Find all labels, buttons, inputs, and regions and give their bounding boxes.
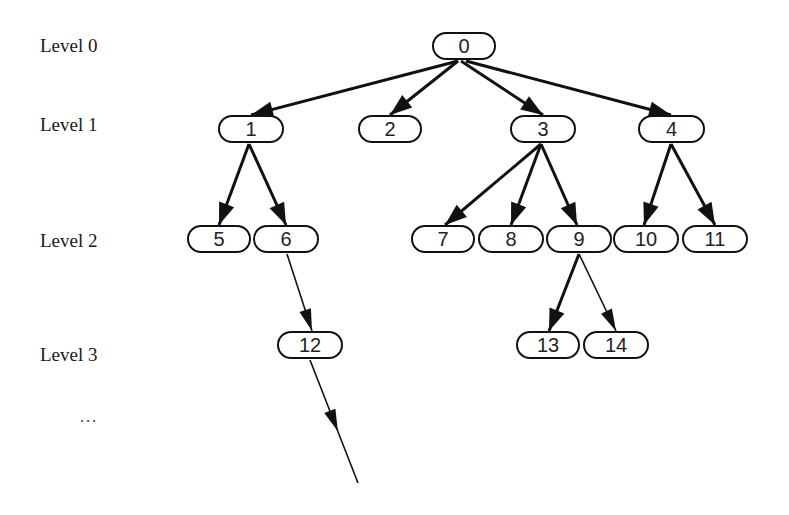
tree-node-0: 0 bbox=[432, 32, 496, 60]
node-label: 0 bbox=[458, 35, 469, 58]
node-label: 14 bbox=[605, 334, 627, 357]
node-label: 10 bbox=[635, 228, 657, 251]
arrowhead-icon bbox=[511, 202, 526, 225]
level-label-0: Level 0 bbox=[40, 36, 98, 55]
edge-0-to-1 bbox=[251, 61, 458, 115]
arrowhead-icon bbox=[390, 95, 412, 115]
tree-node-9: 9 bbox=[546, 225, 612, 253]
tree-node-4: 4 bbox=[638, 115, 705, 143]
tree-node-2: 2 bbox=[358, 115, 422, 143]
more-levels-ellipsis: ... bbox=[80, 408, 98, 426]
node-label: 13 bbox=[537, 334, 559, 357]
tree-node-1: 1 bbox=[218, 115, 284, 143]
level-label-3: Level 3 bbox=[40, 345, 98, 364]
tree-node-11: 11 bbox=[682, 225, 748, 253]
arrowhead-icon bbox=[561, 202, 577, 225]
tree-node-13: 13 bbox=[516, 331, 580, 359]
tree-node-10: 10 bbox=[613, 225, 679, 253]
arrowhead-icon bbox=[299, 308, 312, 331]
arrowhead-icon bbox=[324, 409, 338, 432]
node-label: 11 bbox=[705, 228, 726, 251]
arrowhead-icon bbox=[601, 309, 616, 331]
node-label: 5 bbox=[213, 228, 224, 251]
node-label: 6 bbox=[280, 228, 291, 251]
edge-0-to-4 bbox=[466, 61, 671, 115]
arrowhead-icon bbox=[549, 308, 564, 331]
node-label: 8 bbox=[505, 228, 516, 251]
node-label: 1 bbox=[245, 118, 256, 141]
tree-node-8: 8 bbox=[478, 225, 544, 253]
node-label: 4 bbox=[666, 118, 677, 141]
node-label: 9 bbox=[573, 228, 584, 251]
tree-node-7: 7 bbox=[411, 225, 475, 253]
node-label: 2 bbox=[384, 118, 395, 141]
arrowhead-icon bbox=[697, 202, 715, 225]
tree-node-6: 6 bbox=[253, 225, 319, 253]
arrowhead-icon bbox=[643, 202, 658, 225]
arrowhead-icon bbox=[219, 202, 234, 225]
tree-node-14: 14 bbox=[583, 331, 649, 359]
arrowhead-icon bbox=[520, 96, 543, 115]
level-label-1: Level 1 bbox=[40, 115, 98, 134]
node-label: 12 bbox=[299, 334, 321, 357]
tree-node-3: 3 bbox=[510, 115, 576, 143]
level-label-2: Level 2 bbox=[40, 231, 98, 250]
tree-node-12: 12 bbox=[277, 331, 343, 359]
tree-diagram-canvas bbox=[0, 0, 789, 515]
node-label: 3 bbox=[537, 118, 548, 141]
tree-node-5: 5 bbox=[187, 225, 251, 253]
node-label: 7 bbox=[437, 228, 448, 251]
arrowhead-icon bbox=[270, 202, 286, 225]
